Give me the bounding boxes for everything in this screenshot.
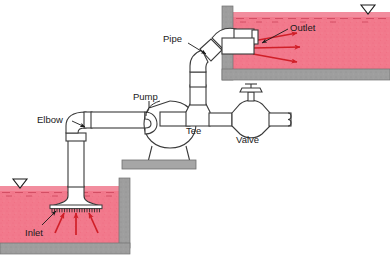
tee-body [186,104,210,126]
diagram-canvas: Outlet [0,0,390,267]
suction-riser-pipe [68,140,84,187]
outlet-tank-floor [222,69,390,80]
valve-body [232,100,270,138]
label-outlet: Outlet [290,22,316,33]
piping-system-diagram: Outlet [0,0,390,267]
riser-pipe-lower [190,72,206,87]
valve-stem [248,92,254,101]
label-pump: Pump [133,91,158,102]
outlet-water-surface-band [232,12,390,17]
label-valve: Valve [236,134,259,145]
inlet-sump: Inlet [0,178,130,254]
inlet-sump-floor [0,243,130,254]
label-elbow: Elbow [37,114,63,125]
inlet-sump-right-wall [119,178,130,248]
tee-branch-riser [190,85,206,105]
inlet-sump-water [0,186,120,248]
valve-handwheel [240,88,262,92]
label-tee: Tee [186,125,201,136]
inlet-water-surface-band [0,186,120,191]
label-pipe: Pipe [163,33,182,44]
tee [186,104,210,126]
valve [232,84,270,138]
tee-to-valve-pipe [209,113,232,126]
label-inlet: Inlet [25,227,43,238]
strainer-plate [50,205,102,209]
outlet-nozzle-through-wall [222,38,254,54]
riser-flange [66,133,86,141]
valve-outlet-stub [269,113,291,126]
pump-base-plate [122,160,196,169]
suction-horizontal-pipe [91,112,145,128]
pump [122,101,196,169]
